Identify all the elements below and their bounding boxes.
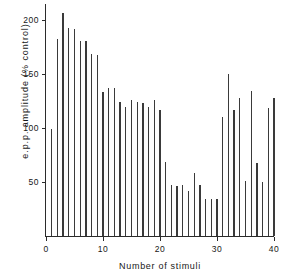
x-axis-tick-label: 20: [155, 244, 165, 254]
bar: [91, 54, 92, 236]
y-axis-tick-label: 200: [23, 15, 39, 25]
bar: [74, 29, 75, 236]
x-axis-tick: [274, 237, 275, 241]
bar: [216, 199, 217, 236]
bar: [222, 117, 223, 236]
bar: [251, 91, 252, 236]
plot-area: [46, 4, 274, 236]
bar: [171, 185, 172, 236]
bar: [182, 185, 183, 236]
x-axis-tick: [103, 237, 104, 241]
bar: [245, 181, 246, 236]
bar: [142, 103, 143, 236]
chart-figure: e.p.p. amplitude (% control) 50100150200…: [0, 0, 286, 278]
y-axis-tick-label: 50: [29, 177, 39, 187]
x-axis-tick: [46, 237, 47, 241]
x-axis-ticks: 010203040: [46, 237, 278, 261]
bar: [108, 88, 109, 236]
bar: [165, 162, 166, 236]
bar: [273, 98, 274, 236]
bar: [233, 110, 234, 236]
bar: [68, 28, 69, 236]
bar: [154, 100, 155, 236]
bar: [239, 98, 240, 236]
bar: [211, 199, 212, 236]
bar: [194, 173, 195, 236]
bar: [57, 39, 58, 236]
bar: [256, 163, 257, 236]
bar: [228, 74, 229, 236]
y-axis-ticks: 50100150200: [0, 0, 46, 241]
x-axis-tick: [217, 237, 218, 241]
x-axis-title: Number of stimuli: [46, 261, 274, 271]
bar: [188, 191, 189, 236]
bar: [176, 186, 177, 236]
y-axis-tick-label: 100: [23, 123, 39, 133]
bar: [85, 41, 86, 236]
x-axis-tick-label: 40: [269, 244, 279, 254]
bar: [199, 185, 200, 236]
bar: [268, 108, 269, 236]
bar: [262, 182, 263, 236]
bar: [137, 102, 138, 236]
x-axis-tick-label: 0: [43, 244, 48, 254]
x-axis-tick-label: 30: [212, 244, 222, 254]
bar: [125, 107, 126, 236]
bar: [205, 199, 206, 236]
y-axis-tick-label: 150: [23, 69, 39, 79]
bar: [131, 100, 132, 236]
bar: [80, 41, 81, 236]
bar: [102, 92, 103, 236]
bar: [159, 110, 160, 236]
bar: [62, 13, 63, 236]
bar: [97, 55, 98, 236]
bar: [51, 129, 52, 236]
bar: [119, 102, 120, 236]
x-axis-tick: [160, 237, 161, 241]
bar: [148, 107, 149, 236]
bar: [114, 88, 115, 236]
x-axis-tick-label: 10: [98, 244, 108, 254]
